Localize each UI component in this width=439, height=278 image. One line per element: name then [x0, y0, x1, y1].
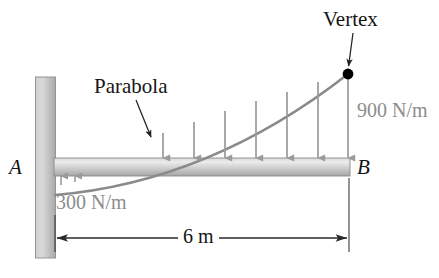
vertex-dot — [343, 69, 354, 80]
point-a-label: A — [9, 157, 22, 178]
vertex-leader-arrow — [349, 33, 353, 66]
span-length-label: 6 m — [178, 226, 219, 246]
parabola-label: Parabola — [94, 76, 167, 97]
diagram-canvas — [0, 0, 439, 278]
vertex-label: Vertex — [323, 9, 378, 30]
fixed-support-wall — [36, 77, 56, 258]
load-max-label: 900 N/m — [357, 100, 428, 120]
parabola-leader-arrow — [136, 100, 151, 137]
statics-beam-diagram: Vertex Parabola 900 N/m 300 N/m A B 6 m — [0, 0, 439, 278]
load-min-label: 300 N/m — [56, 192, 127, 212]
point-b-label: B — [357, 157, 370, 178]
